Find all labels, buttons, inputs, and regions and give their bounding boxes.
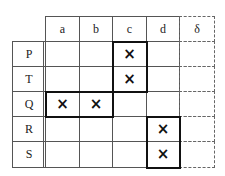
- table-cell: ×: [112, 66, 147, 92]
- table-cell: [179, 41, 215, 67]
- table-cell: [179, 116, 215, 142]
- table-cell: [112, 116, 147, 142]
- table-cell: ×: [45, 91, 80, 117]
- cross-mark-icon: ×: [123, 47, 136, 62]
- table-cell: [179, 141, 215, 168]
- row-header-S: S: [12, 141, 46, 168]
- table-cell: [112, 91, 147, 117]
- table-cell: [45, 116, 80, 142]
- column-header-b: b: [79, 16, 113, 42]
- table-cell: [179, 66, 215, 92]
- row-header-T: T: [12, 66, 46, 92]
- table-cell: [79, 141, 113, 168]
- cross-mark-icon: ×: [157, 147, 170, 162]
- table-cell: [79, 66, 113, 92]
- row-header-Q: Q: [12, 91, 46, 117]
- table-cell: ×: [146, 116, 180, 142]
- column-header-a: a: [45, 16, 80, 42]
- table-cell: [146, 41, 180, 67]
- table-cell: [45, 66, 80, 92]
- table-cell: [146, 66, 180, 92]
- cross-mark-icon: ×: [157, 122, 170, 137]
- cross-mark-icon: ×: [56, 97, 69, 112]
- table-cell: [79, 116, 113, 142]
- cross-mark-icon: ×: [90, 97, 103, 112]
- row-header-separator: [43, 41, 44, 168]
- column-header-c: c: [112, 16, 147, 42]
- table-cell: [146, 91, 180, 117]
- table-cell: ×: [146, 141, 180, 168]
- row-header-R: R: [12, 116, 46, 142]
- column-header-delta: δ: [179, 16, 215, 42]
- table-cell: [112, 141, 147, 168]
- table-cell: [79, 41, 113, 67]
- table-cell: [179, 91, 215, 117]
- table-cell: [45, 41, 80, 67]
- table-cell: [45, 141, 80, 168]
- row-header-P: P: [12, 41, 46, 67]
- table-cell: ×: [79, 91, 113, 117]
- cross-mark-icon: ×: [123, 72, 136, 87]
- table-cell: ×: [112, 41, 147, 67]
- column-header-d: d: [146, 16, 180, 42]
